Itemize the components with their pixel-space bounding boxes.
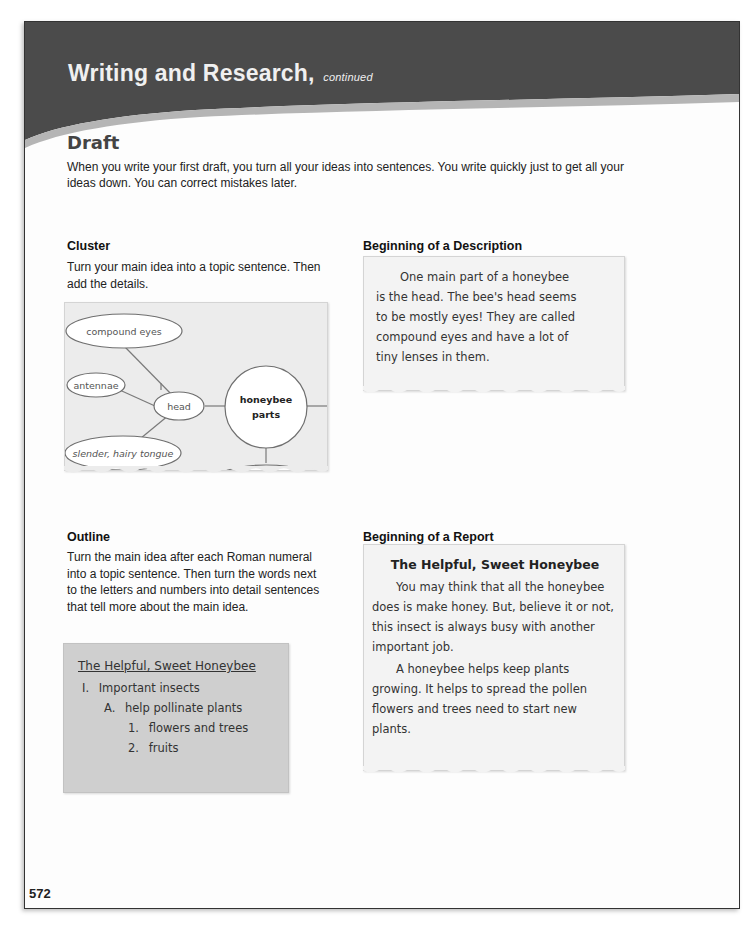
outline-item: I. Important insects — [78, 678, 256, 698]
cluster-lines: compound eyes antennae head slender, hai… — [65, 303, 327, 470]
header-subtitle: continued — [323, 71, 373, 83]
node-head: head — [167, 401, 191, 412]
outline-marker: A. — [104, 701, 115, 715]
outline-text: Important insects — [99, 681, 200, 695]
outline-box: The Helpful, Sweet Honeybee I. Important… — [63, 643, 289, 793]
description-line: to be mostly eyes! They are called — [376, 307, 616, 327]
node-antennae: antennae — [73, 380, 118, 391]
outline-instruction: Turn the main idea after each Roman nume… — [67, 549, 322, 615]
node-center-line2: parts — [252, 409, 280, 420]
outline-text: help pollinate plants — [125, 701, 242, 715]
report-text: The Helpful, Sweet Honeybee You may thin… — [372, 545, 618, 739]
report-title: The Helpful, Sweet Honeybee — [372, 555, 618, 575]
description-text: One main part of a honeybee is the head.… — [376, 267, 616, 367]
header-band — [25, 22, 739, 152]
report-paragraph: You may think that all the honeybee does… — [372, 577, 618, 657]
page-header-title: Writing and Research, continued — [68, 60, 373, 87]
node-compound-eyes: compound eyes — [86, 326, 162, 337]
description-line: One main part of a honeybee — [376, 267, 616, 287]
section-intro: When you write your first draft, you tur… — [67, 159, 627, 191]
description-line: compound eyes and have a lot of — [376, 327, 616, 347]
description-box: One main part of a honeybee is the head.… — [363, 256, 625, 391]
outline-text: fruits — [149, 741, 179, 755]
description-line: is the head. The bee's head seems — [376, 287, 616, 307]
node-tongue: slender, hairy tongue — [73, 448, 174, 459]
report-heading: Beginning of a Report — [363, 530, 494, 544]
outline-marker: 1. — [128, 721, 139, 735]
outline-content: The Helpful, Sweet Honeybee I. Important… — [78, 656, 256, 758]
outline-marker: I. — [82, 681, 89, 695]
outline-heading: Outline — [67, 530, 110, 544]
cluster-diagram: compound eyes antennae head slender, hai… — [64, 302, 328, 471]
torn-edge — [363, 386, 625, 396]
report-box: The Helpful, Sweet Honeybee You may thin… — [363, 544, 625, 771]
outline-text: flowers and trees — [149, 721, 249, 735]
textbook-page: Writing and Research, continued Draft Wh… — [24, 21, 740, 909]
outline-item: 2. fruits — [78, 738, 256, 758]
cluster-heading: Cluster — [67, 239, 110, 253]
cluster-instruction: Turn your main idea into a topic sentenc… — [67, 259, 327, 292]
torn-edge — [64, 466, 328, 476]
report-paragraph: A honeybee helps keep plants growing. It… — [372, 659, 618, 739]
node-center-line1: honeybee — [240, 394, 292, 405]
outline-item: 1. flowers and trees — [78, 718, 256, 738]
header-title-text: Writing and Research, — [68, 60, 315, 86]
section-title: Draft — [67, 132, 119, 153]
description-line: tiny lenses in them. — [376, 347, 616, 367]
description-heading: Beginning of a Description — [363, 239, 522, 253]
outline-item: A. help pollinate plants — [78, 698, 256, 718]
outline-marker: 2. — [128, 741, 139, 755]
page-number: 572 — [29, 886, 51, 901]
outline-title: The Helpful, Sweet Honeybee — [78, 656, 256, 678]
torn-edge — [363, 766, 625, 776]
